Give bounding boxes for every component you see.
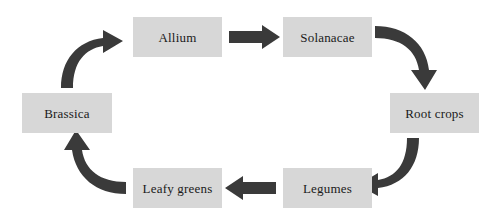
node-leafy-greens[interactable]: Leafy greens [133, 168, 222, 208]
node-allium[interactable]: Allium [133, 17, 222, 57]
node-leafy-greens-label: Leafy greens [143, 182, 213, 195]
crop-rotation-diagram: Allium Solanacae Root crops Legumes Leaf… [0, 0, 497, 219]
node-brassica-label: Brassica [44, 107, 90, 120]
node-allium-label: Allium [158, 31, 196, 44]
arrow-brassica-to-allium [61, 30, 123, 88]
arrow-leafy-greens-to-brassica [64, 130, 126, 194]
node-root-crops[interactable]: Root crops [390, 93, 479, 133]
node-solanacae-label: Solanacae [300, 31, 355, 44]
arrow-legumes-to-leafy-greens [225, 176, 276, 200]
node-root-crops-label: Root crops [405, 107, 464, 120]
node-legumes[interactable]: Legumes [283, 168, 372, 208]
node-legumes-label: Legumes [303, 182, 352, 195]
node-brassica[interactable]: Brassica [22, 93, 112, 133]
arrow-allium-to-solanacae [229, 25, 280, 49]
node-solanacae[interactable]: Solanacae [283, 17, 372, 57]
arrow-solanacae-to-root-crops [375, 26, 437, 90]
